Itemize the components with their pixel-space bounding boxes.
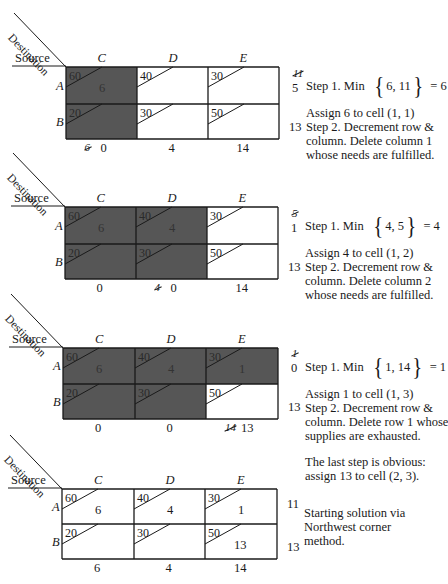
cost-value: 60 [69, 70, 81, 82]
column-header-e: E [239, 192, 247, 205]
column-header-d: D [169, 52, 178, 65]
note-line: Starting solution via [304, 506, 405, 520]
note-line: supplies are exhausted. [305, 429, 421, 443]
row-header-b: B [53, 396, 61, 409]
struck-supply: 1 [292, 348, 298, 359]
demand-value: 14 [237, 142, 250, 155]
left-brace: { [374, 73, 384, 99]
cost-value: 30 [211, 70, 223, 82]
row-header-b: B [56, 116, 64, 129]
right-brace: } [406, 213, 416, 239]
row-header-b: B [52, 536, 60, 549]
cost-value: 20 [66, 387, 78, 399]
supply-value: 13 [288, 401, 301, 414]
allocation-value: 4 [169, 222, 175, 235]
cost-value: 50 [208, 527, 220, 539]
cost-value: 40 [140, 70, 152, 82]
column-header-d: D [167, 333, 176, 346]
right-brace: } [412, 354, 422, 380]
column-header-c: C [97, 192, 105, 205]
right-brace: } [413, 73, 423, 99]
note-line: method. [304, 534, 345, 548]
supply-value: 13 [289, 121, 302, 134]
min-prefix: Step 1. Min [305, 219, 364, 234]
cost-value: 30 [210, 210, 222, 222]
allocation-value: 1 [239, 363, 245, 376]
demand-value: 4 [166, 562, 172, 575]
note-line: Assign 6 to cell (1, 1) [306, 106, 414, 120]
note-extra-line: assign 13 to cell (2, 3). [305, 469, 419, 483]
min-expression: Step 1. Min{1, 14}= 1 [305, 354, 446, 380]
min-result: = 4 [423, 219, 439, 234]
cost-value: 30 [140, 107, 152, 119]
cost-value: 30 [137, 527, 149, 539]
column-header-e: E [237, 474, 245, 487]
row-header-b: B [55, 256, 63, 269]
min-prefix: Step 1. Min [306, 79, 365, 94]
allocation-value: 6 [95, 504, 101, 517]
note-line: Assign 4 to cell (1, 2) [305, 246, 413, 260]
demand-value: 6 [94, 562, 100, 575]
demand-value: 0 [95, 422, 101, 435]
cost-value: 60 [65, 492, 77, 504]
cost-value: 40 [137, 492, 149, 504]
note-line: whose needs are fulfilled. [305, 288, 433, 302]
supply-value: 13 [287, 541, 300, 554]
cost-value: 30 [208, 492, 220, 504]
struck-demand: 6 [85, 142, 91, 153]
column-header-c: C [95, 333, 103, 346]
allocation-value: 4 [168, 363, 174, 376]
row-header-a: A [52, 501, 60, 514]
cost-value: 30 [139, 247, 151, 259]
min-set: 1, 14 [385, 360, 410, 375]
left-brace: { [373, 213, 383, 239]
struck-demand: 4 [155, 282, 161, 293]
struck-demand: 14 [225, 422, 236, 433]
column-header-e: E [238, 333, 246, 346]
demand-value: 0 [171, 282, 177, 295]
column-header-c: C [98, 52, 106, 65]
column-header-c: C [94, 474, 102, 487]
min-expression: Step 1. Min{6, 11}= 6 [306, 73, 447, 99]
cost-value: 40 [138, 351, 150, 363]
allocation-value: 6 [99, 82, 105, 95]
min-result: = 6 [430, 79, 446, 94]
min-set: 4, 5 [385, 219, 404, 234]
column-header-d: D [168, 192, 177, 205]
note-line: Step 2. Decrement row & [305, 401, 433, 415]
note-line: column. Delete row 1 whose [305, 415, 448, 429]
demand-value: 13 [241, 422, 254, 435]
demand-value: 4 [169, 142, 175, 155]
note-line: column. Delete column 2 [305, 274, 431, 288]
min-set: 6, 11 [386, 79, 411, 94]
cost-value: 20 [69, 107, 81, 119]
cost-value: 50 [210, 247, 222, 259]
supply-value: 0 [291, 362, 297, 375]
struck-supply: 11 [293, 68, 303, 79]
supply-value: 1 [291, 222, 297, 235]
row-header-a: A [55, 220, 63, 233]
note-line: whose needs are fulfilled. [306, 148, 434, 162]
min-result: = 1 [430, 360, 446, 375]
cost-value: 60 [68, 210, 80, 222]
demand-value: 0 [97, 282, 103, 295]
allocation-value: 6 [98, 222, 104, 235]
cost-value: 40 [139, 210, 151, 222]
min-expression: Step 1. Min{4, 5}= 4 [305, 213, 440, 239]
supply-value: 11 [287, 498, 299, 511]
demand-value: 0 [101, 142, 107, 155]
supply-value: 5 [292, 82, 298, 95]
demand-value: 14 [234, 562, 247, 575]
cost-value: 30 [209, 351, 221, 363]
supply-value: 13 [288, 261, 301, 274]
row-header-a: A [56, 80, 64, 93]
column-header-d: D [166, 474, 175, 487]
allocation-value: 6 [96, 363, 102, 376]
allocation-value: 13 [234, 539, 247, 552]
cost-value: 20 [68, 247, 80, 259]
note-line: Step 2. Decrement row & [305, 260, 433, 274]
cost-value: 30 [138, 387, 150, 399]
note-extra-line: The last step is obvious: [305, 455, 426, 469]
note-line: Assign 1 to cell (1, 3) [305, 387, 413, 401]
